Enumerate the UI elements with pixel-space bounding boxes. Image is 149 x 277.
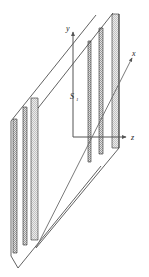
far-plane-bottom-edge xyxy=(36,148,119,248)
far-slit-strip-3 xyxy=(112,14,119,148)
x-axis-label: x xyxy=(131,49,136,58)
source-label-subscript: 1 xyxy=(76,97,79,102)
near-plane-bottom-edge xyxy=(18,166,101,268)
figure-container: y z x S 1 xyxy=(0,0,149,277)
near-slit-strip-3 xyxy=(31,98,38,240)
near-slit-strip-1 xyxy=(13,119,17,253)
y-axis-label: y xyxy=(65,24,70,33)
far-plane xyxy=(31,13,135,248)
near-slit-strip-2 xyxy=(23,107,27,245)
source-label-base: S xyxy=(70,92,74,101)
diagram-canvas: y z x S 1 xyxy=(0,0,149,277)
far-slit-strip-2 xyxy=(99,28,103,154)
near-plane-bottom-left-edge xyxy=(11,256,18,268)
